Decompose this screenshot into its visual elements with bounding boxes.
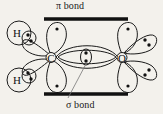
oxygen-symbol: O (118, 52, 126, 64)
hydrogen-lower-bond-pair-ring (22, 69, 36, 83)
ch-upper-electron-dot-a (26, 33, 29, 36)
sigma-lens-upper-arc (56, 46, 118, 57)
figure-canvas: C O H H (0, 0, 163, 114)
oxygen-lone-lower-dot-a (143, 73, 146, 76)
carbon-symbol: C (47, 52, 54, 64)
hydrogen-lower-symbol: H (13, 74, 21, 86)
ch-lower-electron-dot-b (29, 77, 32, 80)
oxygen-upper-electron-dot (126, 27, 129, 30)
carbon-lower-electron-dot (55, 84, 58, 87)
carbon-upper-p-lobe (47, 22, 67, 55)
oxygen-lone-upper-dot-b (147, 43, 150, 46)
carbon-upper-electron-dot (55, 27, 58, 30)
oxygen-lone-upper-dot-a (143, 38, 146, 41)
sigma-electron-dot-top (84, 51, 87, 54)
oxygen-lone-lower-dot-b (147, 68, 150, 71)
carbon-lower-p-lobe (47, 60, 67, 93)
hydrogen-group: H H (7, 21, 36, 92)
sigma-bond-lens-group (56, 46, 118, 69)
sigma-bond-label: σ bond (66, 99, 95, 110)
ch-upper-electron-dot-b (29, 39, 32, 42)
oxygen-lower-electron-dot (126, 84, 129, 87)
electron-dots (26, 27, 150, 87)
hydrogen-upper-symbol: H (13, 27, 21, 39)
hydrogen-upper-bond-pair-ring (22, 31, 36, 45)
pi-bond-label: π bond (56, 0, 84, 11)
orbital-diagram: C O H H (0, 0, 163, 114)
carbon-orbital-group (22, 22, 66, 92)
ch-lower-electron-dot-a (26, 71, 29, 74)
